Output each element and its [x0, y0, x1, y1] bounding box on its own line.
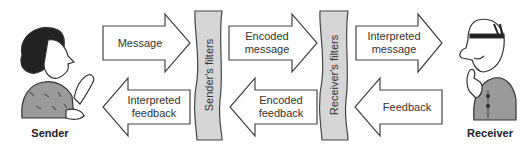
encoded-message-label: Encoded message	[231, 30, 303, 56]
interpreted-feedback-label: Interpreted feedback	[118, 94, 190, 120]
communication-diagram: Message Encoded message Interpreted mess…	[0, 0, 525, 154]
sender-caption: Sender	[20, 127, 80, 139]
encoded-feedback-label: Encoded feedback	[245, 94, 317, 120]
receiver-caption: Receiver	[458, 127, 522, 139]
sender-filter-label: Sender's filters	[203, 25, 215, 125]
sender-figure-icon	[21, 28, 94, 120]
interpreted-message-label: Interpreted message	[358, 30, 430, 56]
receiver-filter-label: Receiver's filters	[328, 25, 340, 125]
receiver-figure-icon	[460, 19, 516, 120]
feedback-label: Feedback	[372, 101, 442, 114]
message-label: Message	[105, 37, 175, 50]
